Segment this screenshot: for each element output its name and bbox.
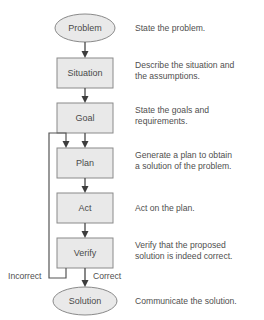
arrowhead-plan: [82, 141, 89, 148]
arrowhead-situation: [82, 51, 89, 58]
description-solution: Communicate the solution.: [135, 296, 237, 306]
arrowhead-incorrect-loop-into-plan: [63, 141, 70, 148]
node-label-act: Act: [78, 203, 92, 213]
description-act: Act on the plan.: [135, 203, 195, 213]
description-situation-line1: Describe the situation and: [135, 60, 235, 70]
node-label-goal: Goal: [75, 113, 94, 123]
arrowhead-solution: [82, 280, 89, 287]
arrowhead-act: [82, 186, 89, 193]
arrowhead-verify: [82, 231, 89, 238]
description-goal-line1: State the goals and: [135, 105, 209, 115]
node-label-solution: Solution: [69, 296, 102, 306]
description-goal-line2: requirements.: [135, 116, 188, 126]
branch-label-correct: Correct: [93, 271, 122, 281]
node-label-verify: Verify: [74, 248, 97, 258]
flowchart-svg: Problem Situation Goal Plan Act Verify S…: [0, 0, 264, 320]
branch-label-incorrect: Incorrect: [8, 271, 42, 281]
arrowhead-goal: [82, 96, 89, 103]
node-label-plan: Plan: [76, 158, 94, 168]
description-verify-line1: Verify that the proposed: [135, 240, 226, 250]
description-situation-line2: the assumptions.: [135, 71, 200, 81]
description-problem: State the problem.: [135, 23, 205, 33]
node-label-problem: Problem: [68, 23, 102, 33]
flowchart-diagram: Problem Situation Goal Plan Act Verify S…: [0, 0, 264, 320]
description-verify-line2: solution is indeed correct.: [135, 251, 232, 261]
description-plan-line2: a solution of the problem.: [135, 161, 232, 171]
node-label-situation: Situation: [67, 68, 102, 78]
description-plan-line1: Generate a plan to obtain: [135, 150, 232, 160]
